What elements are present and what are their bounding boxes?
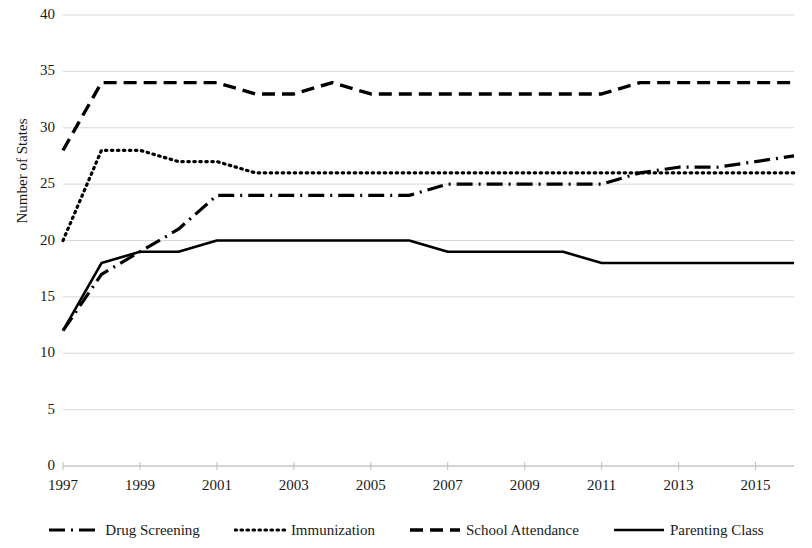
x-axis-tick-label: 2009: [495, 476, 555, 494]
y-axis-tick-label: 10: [27, 345, 55, 360]
y-axis-tick-label: 0: [27, 458, 55, 473]
legend-swatch-dashed-icon: [409, 524, 461, 536]
legend-label: Parenting Class: [670, 523, 764, 538]
legend-label: School Attendance: [466, 523, 579, 538]
series-line-parenting-class: [63, 241, 794, 331]
line-chart: Number of States 4035302520151050 199719…: [0, 0, 812, 548]
x-axis-tick-label: 2003: [264, 476, 324, 494]
legend-item[interactable]: Immunization: [234, 523, 375, 538]
x-axis-tick-label: 1997: [33, 476, 93, 494]
y-axis-tick-label: 20: [27, 233, 55, 248]
y-axis-tick-label: 5: [27, 402, 55, 417]
y-axis-tick-label: 30: [27, 120, 55, 135]
chart-legend: Drug ScreeningImmunizationSchool Attenda…: [0, 515, 812, 545]
x-axis-tick-label: 2011: [572, 476, 632, 494]
x-axis-tick-label: 1999: [110, 476, 170, 494]
x-axis-tick-label: 2013: [649, 476, 709, 494]
x-axis-tick-label: 2005: [341, 476, 401, 494]
x-axis-tick-label: 2015: [726, 476, 786, 494]
legend-swatch-dotted-icon: [234, 524, 286, 536]
legend-item[interactable]: School Attendance: [409, 523, 579, 538]
y-axis-tick-label: 25: [27, 176, 55, 191]
y-axis-tick-label: 40: [27, 7, 55, 22]
x-axis-tick-label: 2007: [418, 476, 478, 494]
x-axis-tick-label: 2001: [187, 476, 247, 494]
series-line-school-attendance: [63, 83, 794, 151]
y-axis-tick-label: 35: [27, 63, 55, 78]
legend-label: Drug Screening: [105, 523, 200, 538]
legend-item[interactable]: Drug Screening: [48, 523, 200, 538]
legend-swatch-dash-dot-icon: [48, 524, 100, 536]
legend-label: Immunization: [291, 523, 375, 538]
series-line-immunization: [63, 150, 794, 240]
x-axis-tick-labels: 1997199920012003200520072009201120132015: [0, 476, 812, 500]
legend-swatch-solid-icon: [613, 524, 665, 536]
plot-area: [63, 15, 794, 466]
y-axis-tick-labels: 4035302520151050: [0, 0, 55, 548]
legend-item[interactable]: Parenting Class: [613, 523, 764, 538]
series-line-drug-screening: [63, 156, 794, 331]
y-axis-tick-label: 15: [27, 289, 55, 304]
plot-svg: [63, 15, 794, 466]
